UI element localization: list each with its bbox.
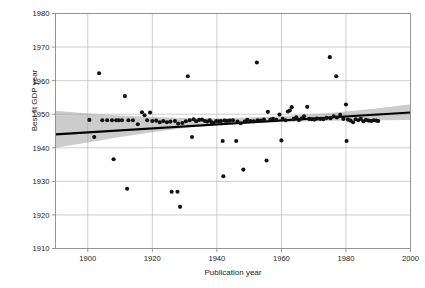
- data-point: [255, 60, 259, 64]
- x-tick-label: 1940: [208, 254, 225, 263]
- data-point: [148, 110, 152, 114]
- data-point: [252, 119, 256, 123]
- data-point: [100, 118, 104, 122]
- data-point: [219, 119, 223, 123]
- data-point: [188, 118, 192, 122]
- data-point: [344, 102, 348, 106]
- y-tick-label: 1910: [33, 244, 50, 253]
- data-point: [126, 118, 130, 122]
- data-point: [262, 118, 266, 122]
- data-point: [123, 94, 127, 98]
- x-tick-label: 1980: [338, 254, 355, 263]
- data-point: [376, 119, 380, 123]
- plot-svg: 1910192019301940195019601970198019001920…: [0, 0, 425, 288]
- y-tick-label: 1920: [33, 211, 50, 220]
- y-axis-label: Best fit GDP year: [30, 41, 39, 161]
- data-point: [190, 135, 194, 139]
- data-point: [158, 120, 162, 124]
- data-point: [125, 187, 129, 191]
- data-point: [241, 168, 245, 172]
- data-point: [131, 118, 135, 122]
- data-point: [186, 74, 190, 78]
- data-point: [305, 105, 309, 109]
- data-point: [277, 113, 281, 117]
- data-point: [221, 174, 225, 178]
- data-point: [302, 114, 306, 118]
- data-point: [180, 121, 184, 125]
- data-point: [345, 139, 349, 143]
- data-point: [335, 116, 339, 120]
- data-point: [92, 135, 96, 139]
- data-point: [154, 119, 158, 123]
- data-point: [328, 55, 332, 59]
- x-axis-label: Publication year: [55, 268, 411, 277]
- x-tick-label: 1920: [144, 254, 161, 263]
- data-point: [165, 120, 169, 124]
- data-point: [145, 118, 149, 122]
- data-point: [87, 118, 91, 122]
- data-point: [176, 122, 180, 126]
- data-point: [175, 190, 179, 194]
- data-point: [136, 122, 140, 126]
- x-tick-label: 1960: [273, 254, 290, 263]
- data-point: [221, 139, 225, 143]
- data-point: [105, 118, 109, 122]
- data-point: [97, 71, 101, 75]
- scatter-chart-figure: 1910192019301940195019601970198019001920…: [0, 0, 425, 288]
- data-point: [239, 121, 243, 125]
- data-point: [161, 119, 165, 123]
- data-point: [234, 139, 238, 143]
- y-tick-label: 1980: [33, 9, 50, 18]
- data-point: [265, 158, 269, 162]
- data-point: [231, 118, 235, 122]
- data-point: [184, 119, 188, 123]
- data-point: [266, 110, 270, 114]
- data-point: [290, 105, 294, 109]
- data-point: [143, 113, 147, 117]
- data-point: [338, 113, 342, 117]
- data-point: [341, 117, 345, 121]
- data-point: [279, 138, 283, 142]
- y-tick-label: 1930: [33, 177, 50, 186]
- x-tick-label: 1900: [79, 254, 96, 263]
- data-point: [170, 190, 174, 194]
- data-point: [274, 118, 278, 122]
- data-point: [173, 119, 177, 123]
- data-point: [112, 157, 116, 161]
- data-point: [284, 118, 288, 122]
- data-point: [120, 118, 124, 122]
- data-point: [334, 74, 338, 78]
- data-point: [168, 120, 172, 124]
- data-point: [150, 119, 154, 123]
- data-point: [110, 118, 114, 122]
- x-tick-label: 2000: [402, 254, 419, 263]
- data-point: [325, 116, 329, 120]
- data-point: [178, 205, 182, 209]
